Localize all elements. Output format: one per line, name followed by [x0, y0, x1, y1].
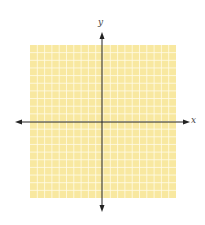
y-axis-bottom-arrow-icon [100, 205, 105, 212]
y-axis-label: y [98, 17, 103, 27]
coordinate-plane [0, 0, 205, 225]
x-axis-left-arrow-icon [15, 120, 22, 125]
y-axis-top-arrow-icon [100, 32, 105, 39]
x-axis-right-arrow-icon [183, 120, 190, 125]
x-axis-label: x [191, 115, 196, 125]
